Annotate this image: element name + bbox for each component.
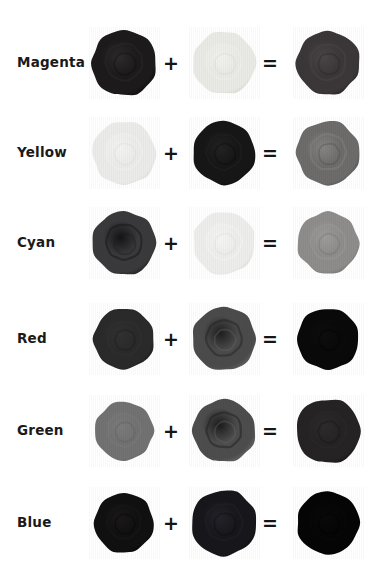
- cyan-blob: [188, 117, 260, 189]
- row-label: Green: [17, 424, 64, 438]
- cyan-blob-shape: [188, 303, 260, 375]
- plus-operator: +: [163, 330, 179, 349]
- mixing-row-cyan: Cyan+=: [0, 198, 371, 288]
- yellow-blob-shape: [88, 117, 160, 189]
- green-result-blob-shape: [292, 207, 364, 279]
- black-result-blob-shape: [292, 303, 364, 375]
- yellow-blob: [88, 117, 160, 189]
- row-label: Magenta: [17, 56, 85, 70]
- equals-operator: =: [262, 234, 278, 253]
- plus-operator: +: [163, 144, 179, 163]
- row-label: Red: [17, 332, 47, 346]
- mixing-row-green: Green+=: [0, 386, 371, 476]
- magenta-blob-shape: [188, 395, 260, 467]
- black-result-blob-shape: [292, 395, 364, 467]
- green-result-blob: [292, 117, 364, 189]
- magenta-blob-shape: [88, 27, 160, 99]
- equals-operator: =: [262, 330, 278, 349]
- equals-operator: =: [262, 514, 278, 533]
- mixing-row-blue: Blue+=: [0, 478, 371, 568]
- row-label: Blue: [17, 516, 51, 530]
- green-blob: [88, 395, 160, 467]
- blue-blob: [88, 487, 160, 559]
- yellow-blob-shape: [188, 487, 260, 559]
- color-mixing-figure: Magenta+=Yellow+=Cyan+=Red+=Green+=Blue+…: [0, 0, 371, 586]
- plus-operator: +: [163, 422, 179, 441]
- plus-operator: +: [163, 54, 179, 73]
- black-result-blob: [292, 487, 364, 559]
- row-label: Cyan: [17, 236, 55, 250]
- yellow-blob-shape: [188, 207, 260, 279]
- red-result-blob-shape: [292, 27, 364, 99]
- plus-operator: +: [163, 234, 179, 253]
- red-blob: [88, 303, 160, 375]
- equals-operator: =: [262, 54, 278, 73]
- black-result-blob: [292, 303, 364, 375]
- yellow-blob: [188, 487, 260, 559]
- green-blob-shape: [88, 395, 160, 467]
- red-result-blob: [292, 27, 364, 99]
- blue-blob-shape: [88, 487, 160, 559]
- equals-operator: =: [262, 144, 278, 163]
- black-result-blob: [292, 395, 364, 467]
- mixing-row-red: Red+=: [0, 294, 371, 384]
- equals-operator: =: [262, 422, 278, 441]
- red-blob-shape: [88, 303, 160, 375]
- green-result-blob-shape: [292, 117, 364, 189]
- cyan-blob-shape: [188, 117, 260, 189]
- yellow-blob-shape: [188, 27, 260, 99]
- mixing-row-magenta: Magenta+=: [0, 18, 371, 108]
- cyan-blob: [88, 207, 160, 279]
- cyan-blob-shape: [88, 207, 160, 279]
- mixing-row-yellow: Yellow+=: [0, 108, 371, 198]
- yellow-blob: [188, 207, 260, 279]
- magenta-blob: [88, 27, 160, 99]
- plus-operator: +: [163, 514, 179, 533]
- cyan-blob: [188, 303, 260, 375]
- green-result-blob: [292, 207, 364, 279]
- magenta-blob: [188, 395, 260, 467]
- black-result-blob-shape: [292, 487, 364, 559]
- row-label: Yellow: [17, 146, 67, 160]
- yellow-blob: [188, 27, 260, 99]
